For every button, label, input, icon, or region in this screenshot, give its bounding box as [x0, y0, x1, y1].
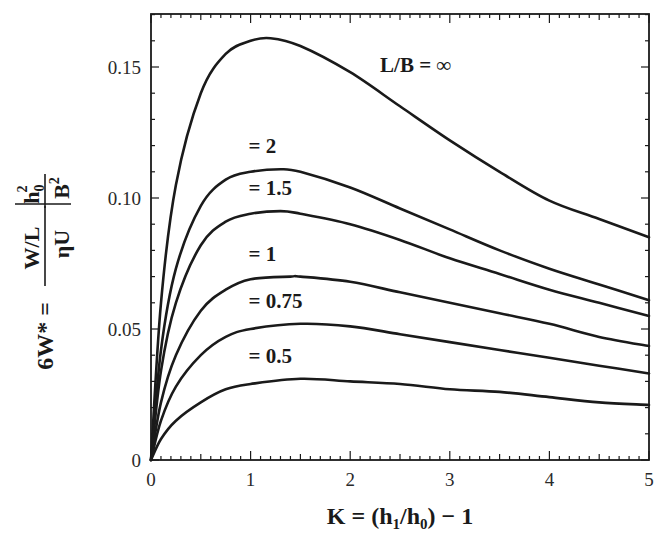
y-title-B: B — [49, 184, 74, 199]
y-tick-label: 0.15 — [108, 57, 141, 78]
curve-series-0 — [151, 38, 649, 460]
curves — [151, 38, 649, 460]
chart: 01234500.050.100.15 L/B = ∞= 2= 1.5= 1= … — [0, 0, 665, 542]
tick-labels: 01234500.050.100.15 — [108, 57, 654, 490]
y-title-lhs: 6W* = — [32, 302, 58, 370]
y-title-h-term: h02 — [15, 184, 47, 203]
x-title-part: K = (h — [327, 503, 393, 529]
plot-border — [151, 14, 649, 460]
y-title-B-sup: 2 — [47, 177, 62, 184]
x-tick-label: 5 — [644, 469, 654, 490]
x-title-part: /h — [399, 503, 420, 529]
curve-label: = 1 — [249, 242, 277, 266]
curve-series-5 — [151, 379, 649, 460]
curve-label: = 2 — [249, 134, 277, 158]
x-tick-label: 4 — [545, 469, 555, 490]
curve-label: = 0.75 — [249, 289, 303, 313]
x-tick-label: 2 — [345, 469, 355, 490]
y-title-denominator: ηU — [49, 230, 74, 258]
y-title-h-sup: 2 — [15, 185, 30, 192]
curve-label: = 0.5 — [249, 344, 292, 368]
curve-label: L/B = ∞ — [380, 53, 451, 77]
x-tick-label: 1 — [246, 469, 256, 490]
curve-series-3 — [151, 276, 649, 460]
axis-ticks — [151, 14, 649, 460]
curve-series-4 — [151, 324, 649, 460]
y-title-numerator: W/L — [19, 227, 44, 270]
x-tick-label: 3 — [445, 469, 455, 490]
x-title-subscript-1: 1 — [393, 516, 401, 532]
curve-label: = 1.5 — [249, 176, 292, 200]
x-title-subscript-0: 0 — [420, 516, 428, 532]
x-axis-title: K = (h1/h0) − 1 — [327, 503, 473, 532]
x-title-part: ) − 1 — [428, 503, 474, 529]
y-tick-label: 0.05 — [108, 319, 141, 340]
y-axis-title: 6W* = W/L ηU h02 B2 — [15, 174, 74, 370]
curve-series-1 — [151, 169, 649, 460]
y-tick-label: 0.10 — [108, 188, 141, 209]
plot-frame — [151, 14, 649, 460]
x-tick-label: 0 — [146, 469, 156, 490]
y-title-B-term: B2 — [47, 177, 74, 199]
y-tick-label: 0 — [132, 450, 142, 471]
